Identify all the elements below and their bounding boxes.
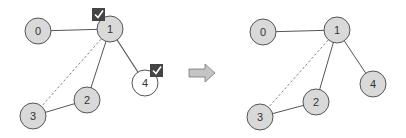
node-label: 0 [260,26,266,38]
node-3: 3 [247,104,273,130]
node-label: 4 [142,77,148,89]
node-label: 3 [257,111,263,123]
graph-transformation-diagram: 0 1 2 3 4 [0,0,406,138]
node-label: 2 [84,94,90,106]
node-label: 1 [334,24,340,36]
node-label: 3 [30,110,36,122]
node-label: 4 [370,78,376,90]
node-0: 0 [25,18,51,44]
after-graph: 0 1 2 3 4 [247,17,386,130]
node-1: 1 [324,17,350,43]
node-3: 3 [20,103,46,129]
before-graph: 0 1 2 3 4 [20,8,163,129]
checkmark-icon [150,64,163,77]
node-4: 4 [360,71,386,97]
node-2: 2 [303,89,329,115]
node-label: 1 [107,23,113,35]
node-0: 0 [250,19,276,45]
node-label: 2 [313,96,319,108]
node-2: 2 [74,87,100,113]
checkmark-icon [92,8,105,21]
right-arrow-icon [189,64,215,82]
node-label: 0 [35,25,41,37]
